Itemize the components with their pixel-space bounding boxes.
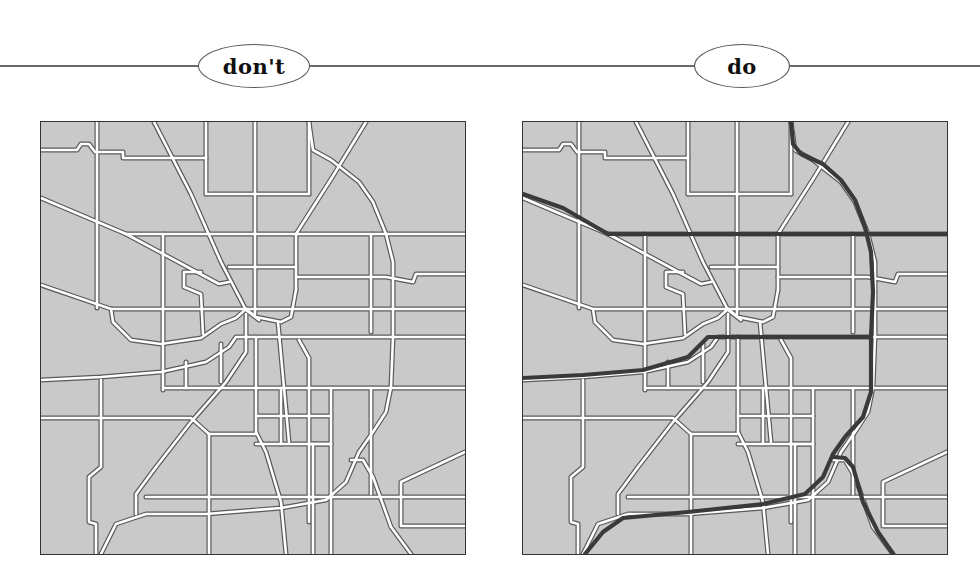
dont-map [40, 121, 466, 555]
street-map-plain [41, 122, 465, 554]
street-map-highways [523, 122, 947, 554]
do-label: do [694, 44, 790, 88]
do-map [522, 121, 948, 555]
divider-rule [0, 65, 980, 67]
dont-label: don't [198, 44, 310, 88]
